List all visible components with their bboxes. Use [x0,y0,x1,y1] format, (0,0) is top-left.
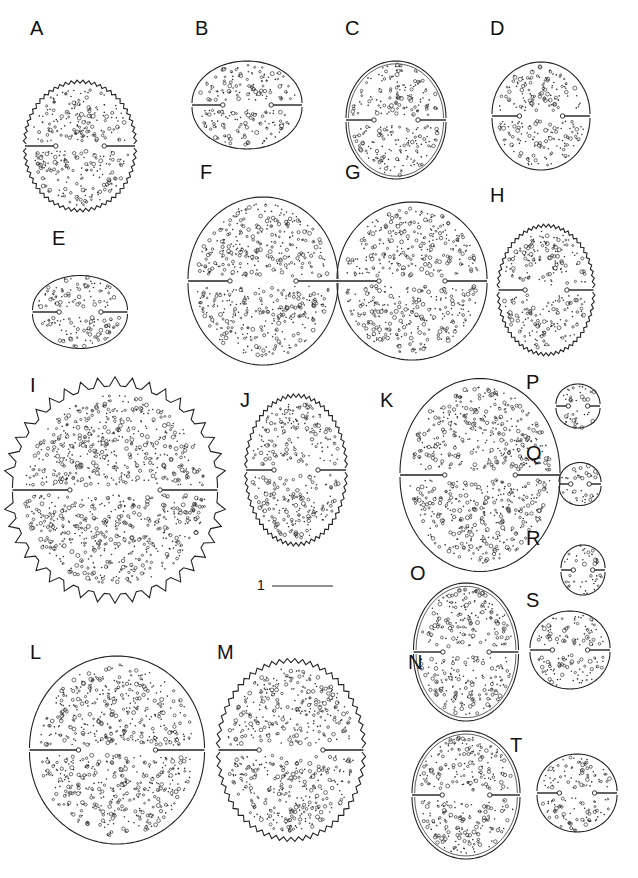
scale-bar-label: 1 [257,577,265,593]
panel-label-k: K [380,390,393,410]
panel-label-m: M [217,642,234,662]
panel-label-r: R [526,528,540,548]
panel-c-drawing [346,61,446,179]
panel-p-drawing [556,384,600,429]
panel-label-s: S [526,590,539,610]
panel-label-i: I [30,375,36,395]
panel-label-t: T [510,735,522,755]
desmid-drawings [0,0,638,878]
panel-label-a: A [30,18,43,38]
panel-q-drawing [559,463,601,506]
panel-label-g: G [345,162,361,182]
panel-label-n: N [408,652,422,672]
panel-e-drawing [33,276,128,349]
panel-j-drawing [245,394,348,546]
panel-label-p: P [526,372,539,392]
panel-label-d: D [490,18,504,38]
panel-i-drawing [5,377,226,603]
panel-l-drawing [30,656,205,844]
panel-label-f: F [200,162,212,182]
panel-m-drawing [216,659,365,842]
panel-s-drawing [530,611,610,689]
panel-label-l: L [30,642,41,662]
panel-n-drawing [412,731,520,859]
panel-label-j: J [240,390,250,410]
panel-label-o: O [410,563,426,583]
panel-g-drawing [337,202,487,360]
panel-a-drawing [23,80,136,212]
panel-label-c: C [345,18,359,38]
panel-f-drawing [188,197,338,365]
panel-b-drawing [192,61,302,149]
panel-d-drawing [492,62,590,170]
figure-plate: ABCDEFGHIJKPQRSOLMNT 1 [0,0,638,878]
panel-label-b: B [195,18,208,38]
panel-o-drawing [414,583,519,721]
panel-r-drawing [561,545,605,595]
panel-label-e: E [52,228,65,248]
panel-label-q: Q [526,443,542,463]
panel-h-drawing [497,224,595,356]
panel-t-drawing [537,754,617,832]
panel-label-h: H [490,185,504,205]
